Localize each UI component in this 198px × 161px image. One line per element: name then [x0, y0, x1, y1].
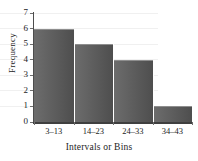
- y-axis-tick-mark: [30, 59, 33, 60]
- bar-separator: [113, 44, 114, 122]
- x-axis-tick-mark: [74, 122, 75, 125]
- y-axis-tick-mark: [30, 106, 33, 107]
- y-axis-tick-mark: [30, 13, 33, 14]
- histogram-bar: [113, 60, 153, 122]
- bar-separator: [74, 29, 75, 122]
- y-axis-tick-label: 1: [12, 101, 28, 110]
- x-axis-tick-mark: [153, 122, 154, 125]
- y-axis-tick-mark: [30, 75, 33, 76]
- y-axis-tick-mark: [30, 44, 33, 45]
- y-axis-tick-label: 0: [12, 117, 28, 126]
- x-axis-tick-label: 3–13: [34, 126, 74, 136]
- x-axis-tick-label: 34–43: [153, 126, 193, 136]
- y-axis-tick-mark: [30, 28, 33, 29]
- y-axis-title: Frequency: [7, 15, 17, 91]
- histogram-chart: 01234567 3–1314–2324–3334–43 Frequency I…: [0, 0, 198, 161]
- x-axis-tick-label: 24–33: [113, 126, 153, 136]
- y-axis-tick-mark: [30, 90, 33, 91]
- x-axis-tick-mark: [192, 122, 193, 125]
- histogram-bar: [153, 106, 193, 122]
- x-axis-tick-label: 14–23: [74, 126, 114, 136]
- x-axis-tick-mark: [34, 122, 35, 125]
- histogram-bar: [34, 29, 74, 122]
- y-axis-tick-mark: [30, 122, 33, 123]
- bar-separator: [153, 60, 154, 122]
- histogram-bar: [74, 44, 114, 122]
- x-axis-title: Intervals or Bins: [0, 142, 198, 153]
- x-axis-tick-mark: [113, 122, 114, 125]
